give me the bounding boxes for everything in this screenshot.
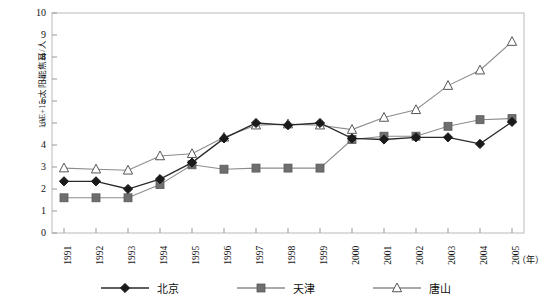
- data-point-triangle: [187, 149, 196, 158]
- legend-label: 北京: [157, 280, 179, 296]
- data-point-square: [284, 164, 292, 172]
- data-point-square: [476, 116, 484, 124]
- plot-area: [0, 0, 550, 303]
- data-point-square: [257, 284, 265, 292]
- square-marker: [284, 164, 292, 172]
- diamond-marker: [91, 177, 100, 186]
- data-point-diamond: [59, 177, 68, 186]
- square-marker: [316, 164, 324, 172]
- diamond-marker: [283, 121, 292, 130]
- triangle-marker: [443, 81, 452, 90]
- triangle-marker: [411, 105, 420, 114]
- legend-item-triangle[interactable]: 唐山: [371, 280, 451, 296]
- data-point-square: [124, 194, 132, 202]
- square-marker: [60, 194, 68, 202]
- data-point-square: [252, 164, 260, 172]
- data-point-diamond: [283, 121, 292, 130]
- series-line-北京: [64, 122, 512, 189]
- square-marker: [124, 194, 132, 202]
- triangle-marker: [59, 163, 68, 172]
- diamond-marker: [123, 184, 132, 193]
- square-marker: [220, 165, 228, 173]
- diamond-marker: [59, 177, 68, 186]
- chart-legend: 北京天津唐山: [0, 276, 550, 300]
- data-point-diamond: [475, 139, 484, 148]
- diamond-marker: [120, 283, 129, 292]
- data-point-diamond: [123, 184, 132, 193]
- triangle-marker: [475, 65, 484, 74]
- square-marker: [257, 284, 265, 292]
- data-point-triangle: [59, 163, 68, 172]
- data-point-diamond: [120, 283, 129, 292]
- line-chart: 10E+15 太阳能焦耳/人 109876543210 199119921993…: [0, 0, 550, 303]
- legend-item-square[interactable]: 天津: [235, 280, 315, 296]
- legend-symbol-diamond: [99, 281, 151, 295]
- x-axis-unit-label: （年）: [517, 253, 544, 266]
- data-point-square: [220, 165, 228, 173]
- square-marker: [92, 194, 100, 202]
- data-point-square: [92, 194, 100, 202]
- triangle-marker: [187, 149, 196, 158]
- diamond-marker: [443, 133, 452, 142]
- legend-label: 唐山: [429, 280, 451, 296]
- square-marker: [444, 122, 452, 130]
- data-point-square: [316, 164, 324, 172]
- triangle-marker: [507, 37, 516, 46]
- data-point-triangle: [475, 65, 484, 74]
- data-point-square: [60, 194, 68, 202]
- data-point-diamond: [443, 133, 452, 142]
- data-point-diamond: [91, 177, 100, 186]
- square-marker: [252, 164, 260, 172]
- legend-item-diamond[interactable]: 北京: [99, 280, 179, 296]
- data-point-triangle: [507, 37, 516, 46]
- legend-symbol-square: [235, 281, 287, 295]
- legend-symbol-triangle: [371, 281, 423, 295]
- series-line-唐山: [64, 42, 512, 171]
- data-point-triangle: [443, 81, 452, 90]
- data-point-square: [444, 122, 452, 130]
- square-marker: [476, 116, 484, 124]
- legend-label: 天津: [293, 280, 315, 296]
- data-point-triangle: [411, 105, 420, 114]
- diamond-marker: [475, 139, 484, 148]
